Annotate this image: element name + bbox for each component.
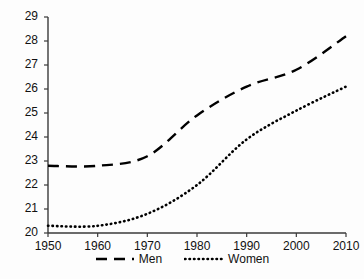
x-tick-label: 1970 <box>127 239 167 253</box>
y-tick-label: 23 <box>12 153 38 167</box>
legend-label-women: Women <box>228 252 269 266</box>
legend-item-men: Men <box>95 252 162 266</box>
legend-swatch-dotted <box>184 253 224 265</box>
chart-canvas <box>0 0 364 279</box>
legend-label-men: Men <box>139 252 162 266</box>
x-tick-label: 1950 <box>28 239 68 253</box>
y-tick-label: 20 <box>12 225 38 239</box>
y-tick-label: 22 <box>12 177 38 191</box>
legend-item-women: Women <box>184 252 269 266</box>
y-tick-label: 25 <box>12 105 38 119</box>
x-tick-label: 2010 <box>326 239 364 253</box>
x-tick-label: 1990 <box>227 239 267 253</box>
y-tick-label: 29 <box>12 9 38 23</box>
y-tick-label: 26 <box>12 81 38 95</box>
y-tick-label: 27 <box>12 57 38 71</box>
legend-swatch-dashed <box>95 253 135 265</box>
y-tick-label: 28 <box>12 33 38 47</box>
series-line-women <box>48 87 346 227</box>
x-tick-label: 1960 <box>78 239 118 253</box>
chart-legend: Men Women <box>0 252 364 266</box>
line-chart: 20212223242526272829 1950196019701980199… <box>0 0 364 279</box>
y-tick-label: 21 <box>12 201 38 215</box>
x-tick-label: 2000 <box>276 239 316 253</box>
y-tick-label: 24 <box>12 129 38 143</box>
series-line-men <box>48 36 346 166</box>
x-tick-label: 1980 <box>177 239 217 253</box>
